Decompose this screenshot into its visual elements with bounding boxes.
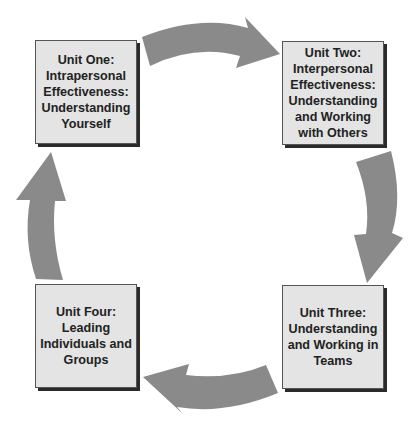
unit-two-box: Unit Two: Interpersonal Effectiveness: U… bbox=[282, 41, 384, 145]
unit-four-label: Unit Four: Leading Individuals and Group… bbox=[39, 304, 133, 368]
unit-two-label: Unit Two: Interpersonal Effectiveness: U… bbox=[286, 45, 380, 141]
arrow-up-icon bbox=[16, 152, 66, 280]
unit-four-box: Unit Four: Leading Individuals and Group… bbox=[35, 284, 137, 388]
arrow-left-icon bbox=[143, 364, 278, 414]
unit-three-box: Unit Three: Understanding and Working in… bbox=[282, 285, 384, 389]
arrow-down-icon bbox=[354, 151, 403, 283]
unit-one-label: Unit One: Intrapersonal Effectiveness: U… bbox=[39, 52, 133, 132]
unit-three-label: Unit Three: Understanding and Working in… bbox=[286, 305, 380, 369]
unit-one-box: Unit One: Intrapersonal Effectiveness: U… bbox=[35, 40, 137, 144]
arrow-right-icon bbox=[142, 17, 280, 68]
